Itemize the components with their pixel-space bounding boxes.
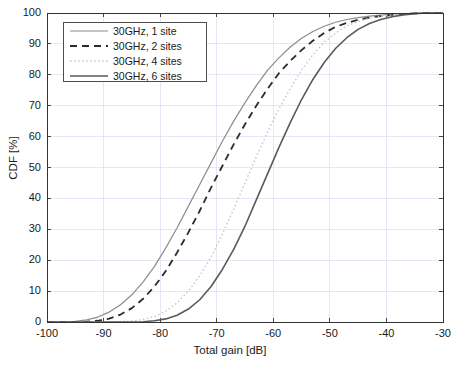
x-tick-label: -90 (84, 327, 124, 339)
x-tick-label: -60 (253, 327, 293, 339)
x-axis-title: Total gain [dB] (0, 344, 460, 356)
x-tick-label: -80 (140, 327, 180, 339)
legend-line-swatch-1 (69, 25, 109, 37)
x-tick-label: -30 (423, 327, 460, 339)
legend-line-swatch-3 (69, 55, 109, 67)
legend-line-swatch-2 (69, 40, 109, 52)
y-tick-label: 20 (11, 253, 41, 265)
y-tick-label: 80 (11, 68, 41, 80)
y-tick-label: 90 (11, 37, 41, 49)
legend-item: 30GHz, 4 sites (64, 54, 206, 68)
x-tick-label: -40 (366, 327, 406, 339)
legend-label-3: 30GHz, 4 sites (113, 55, 182, 67)
y-tick-label: 30 (11, 222, 41, 234)
cdf-chart-figure: -100-90-80-70-60-50-40-30010203040506070… (0, 0, 460, 365)
y-tick-label: 10 (11, 284, 41, 296)
y-tick-label: 100 (11, 6, 41, 18)
y-axis-title: CDF [%] (7, 108, 19, 208)
legend-item: 30GHz, 1 site (64, 24, 206, 38)
legend-label-1: 30GHz, 1 site (113, 25, 177, 37)
legend-label-2: 30GHz, 2 sites (113, 40, 182, 52)
x-tick-label: -50 (310, 327, 350, 339)
legend-item: 30GHz, 2 sites (64, 39, 206, 53)
x-tick-label: -70 (197, 327, 237, 339)
y-tick-label: 0 (11, 315, 41, 327)
legend-line-swatch-4 (69, 70, 109, 82)
legend: 30GHz, 1 site 30GHz, 2 sites 30GHz, 4 si… (63, 22, 207, 82)
legend-label-4: 30GHz, 6 sites (113, 70, 182, 82)
legend-item: 30GHz, 6 sites (64, 69, 206, 83)
x-tick-label: -100 (27, 327, 67, 339)
